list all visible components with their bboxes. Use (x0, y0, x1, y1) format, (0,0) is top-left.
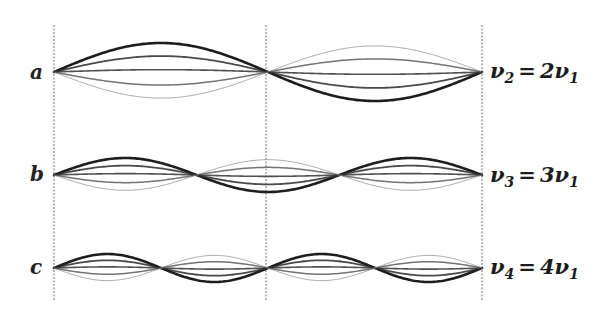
rhs-subscript: 1 (569, 70, 579, 86)
wave-curve (54, 166, 482, 185)
rhs-subscript: 1 (569, 174, 579, 190)
equals-sign: = (518, 254, 536, 279)
coefficient: 2 (540, 58, 555, 83)
rhs-symbol: ν (555, 58, 570, 83)
lhs-subscript: 2 (505, 70, 515, 86)
lhs-symbol: ν (490, 162, 505, 187)
equation-nu2: ν2=2ν1 (490, 60, 579, 85)
row-label-a: a (30, 62, 43, 82)
equation-nu3: ν3=3ν1 (490, 164, 579, 189)
wave-curve (54, 167, 482, 182)
wave-curve (54, 255, 482, 280)
rhs-subscript: 1 (569, 266, 579, 282)
coefficient: 4 (540, 254, 555, 279)
wave-curve (54, 158, 482, 192)
equals-sign: = (518, 58, 536, 83)
rhs-symbol: ν (555, 254, 570, 279)
lhs-subscript: 4 (505, 266, 515, 282)
lhs-subscript: 3 (505, 174, 515, 190)
lhs-symbol: ν (490, 254, 505, 279)
row-label-b: b (30, 164, 44, 184)
lhs-symbol: ν (490, 58, 505, 83)
rhs-symbol: ν (555, 162, 570, 187)
standing-wave-diagram: a ν2=2ν1 b ν3=3ν1 c ν4=4ν1 (0, 0, 606, 318)
wave-row-b (54, 158, 482, 192)
coefficient: 3 (540, 162, 555, 187)
wave-curve (54, 46, 482, 98)
wave-curve (54, 174, 482, 177)
equation-nu4: ν4=4ν1 (490, 256, 579, 281)
wave-row-a (54, 43, 482, 101)
wave-curve (54, 160, 482, 191)
wave-row-c (54, 254, 482, 282)
row-label-c: c (30, 257, 42, 277)
wave-envelopes (54, 43, 482, 282)
equals-sign: = (518, 162, 536, 187)
node-guide-lines (54, 25, 482, 300)
